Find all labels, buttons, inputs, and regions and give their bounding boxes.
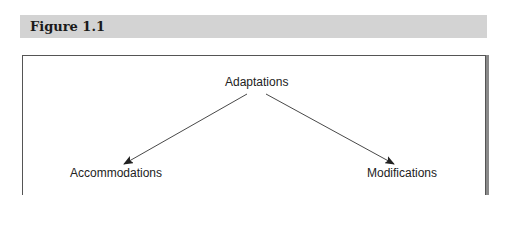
arrow-to-accommodations	[124, 94, 247, 164]
node-accommodations: Accommodations	[70, 166, 162, 180]
node-adaptations: Adaptations	[225, 75, 288, 89]
node-modifications: Modifications	[367, 166, 437, 180]
arrow-to-modifications	[266, 94, 394, 164]
